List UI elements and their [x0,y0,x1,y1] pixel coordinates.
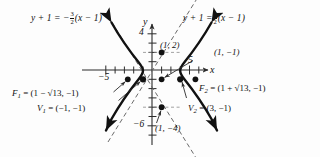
focus-right-subscript: 2 [205,87,208,94]
vertex-right-subscript: 2 [194,107,197,114]
point-vertex-left [140,76,146,82]
y-axis-label: y [143,17,147,28]
x-axis-label: x [210,65,214,76]
label-vertex-left: V1 = (−1, −1) [37,104,85,114]
asymptote-left-lhs: y + 1 = − [31,13,70,23]
point-center [159,76,165,82]
label-center-point: (1, −1) [214,48,240,57]
focus-left-subscript: 1 [18,92,21,99]
asymptote-right-fraction: 32 [213,11,217,25]
point-focus-left [125,76,131,82]
left-branch [106,23,143,131]
y-tick-label-4: 4 [139,28,144,38]
x-tick-label-neg5: −5 [98,73,109,83]
y-tick-label-neg6: −6 [133,120,144,130]
vertex-right-value: = (3, −1) [199,103,231,113]
point-covertex-bottom [159,104,165,110]
label-focus-right: F2 = (1 + √13, −1) [199,84,266,94]
label-covertex-top: (1, 2) [160,41,180,50]
asymptote-left-denominator: 2 [70,19,74,26]
asymptote-left-fraction: 32 [70,11,74,25]
arrow-to-covertex-bottom [157,111,162,124]
focus-right-value: = (1 + √13, −1) [210,83,265,93]
label-covertex-bottom: (1, −4) [155,124,181,133]
x-tick-label-5: 5 [188,56,193,66]
asymptote-right-lhs: y + 1 = [183,13,213,23]
label-focus-left: F1 = (1 − √13, −1) [12,89,79,99]
vertex-left-subscript: 1 [43,107,46,114]
label-vertex-right: V2 = (3, −1) [188,104,231,114]
asymptote-right-denominator: 2 [213,19,217,26]
point-focus-right [193,76,199,82]
right-branch [180,23,217,131]
asymptote-right-rhs: (x − 1) [218,13,245,23]
arrow-to-focus-left [114,82,126,93]
asymptote-left-rhs: (x − 1) [75,13,102,23]
hyperbola-figure: y + 1 = −32(x − 1) y + 1 =32(x − 1) x y … [0,0,320,157]
vertex-left-value: = (−1, −1) [48,103,85,113]
point-vertex-right [177,76,183,82]
asymptote-right-equation: y + 1 =32(x − 1) [183,11,245,25]
arrow-to-vertex-right [182,82,187,98]
focus-left-value: = (1 − √13, −1) [23,88,78,98]
asymptote-left-equation: y + 1 = −32(x − 1) [31,11,102,25]
